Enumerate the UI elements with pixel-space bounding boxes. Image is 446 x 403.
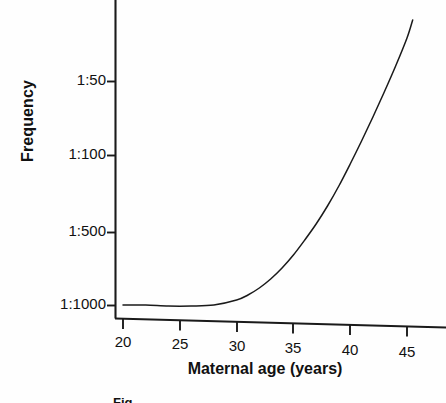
x-tick-label-40: 40 xyxy=(330,341,370,358)
x-tick-label-45: 45 xyxy=(387,343,427,360)
x-tick-label-25: 25 xyxy=(160,335,200,352)
figure-down-syndrome-risk-chart: Frequency 1:50 1:100 1:500 1:1000 20 25 … xyxy=(0,0,446,403)
x-tick-label-30: 30 xyxy=(217,337,257,354)
x-tick-label-20: 20 xyxy=(103,333,143,350)
figure-caption-cropped: Fig. xyxy=(113,396,136,403)
x-tick-label-group: 20 25 30 35 40 45 xyxy=(0,0,446,403)
x-tick-label-35: 35 xyxy=(273,339,313,356)
x-axis-title: Maternal age (years) xyxy=(100,360,430,378)
